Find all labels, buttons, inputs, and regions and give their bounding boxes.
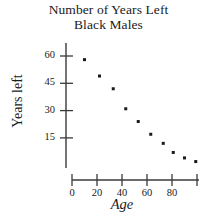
data-point — [124, 107, 127, 110]
scatter-plot-canvas — [0, 0, 217, 218]
y-tick-label: 15 — [35, 131, 55, 142]
data-point — [149, 133, 152, 136]
y-axis-label: Years left — [10, 56, 26, 146]
data-point — [137, 120, 140, 123]
data-points-group — [83, 58, 197, 163]
data-point — [98, 75, 101, 78]
data-point — [172, 151, 175, 154]
data-point — [112, 87, 115, 90]
chart-figure: Number of Years Left Black Males 1530456… — [0, 0, 217, 218]
y-tick-label: 60 — [35, 49, 55, 60]
y-tick-label: 45 — [35, 76, 55, 87]
axes-group — [66, 43, 199, 180]
data-point — [194, 160, 197, 163]
x-axis-label: Age — [72, 196, 172, 213]
data-point — [83, 58, 86, 61]
y-tick-label: 30 — [35, 104, 55, 115]
data-point — [162, 142, 165, 145]
data-point — [183, 156, 186, 159]
